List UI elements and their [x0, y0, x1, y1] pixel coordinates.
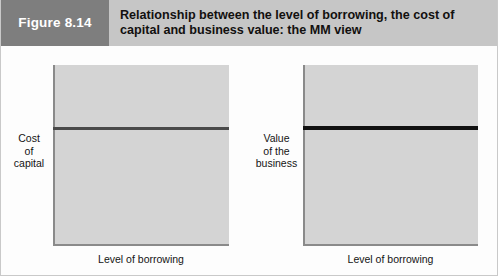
figure-title-container: Relationship between the level of borrow… — [109, 0, 498, 46]
x-axis-label-business-value: Level of borrowing — [303, 253, 478, 266]
series-line-cost-of-capital — [53, 127, 229, 130]
chart-business-value: Value of the business Level of borrowing — [250, 46, 498, 276]
y-axis-label-line-2: of the — [252, 145, 301, 158]
y-axis-label-line-1: Value — [252, 132, 301, 145]
figure-header: Figure 8.14 Relationship between the lev… — [1, 0, 498, 46]
y-axis-line-cost-of-capital — [53, 65, 55, 246]
y-axis-label-cost-of-capital: Cost of capital — [7, 132, 51, 170]
y-axis-label-line-2: of — [7, 145, 51, 158]
charts-area: Cost of capital Level of borrowing Value… — [1, 46, 498, 276]
figure-container: Figure 8.14 Relationship between the lev… — [0, 0, 498, 276]
x-axis-line-cost-of-capital — [53, 244, 229, 246]
x-axis-line-business-value — [303, 244, 478, 246]
y-axis-label-line-1: Cost — [7, 132, 51, 145]
y-axis-label-line-3: business — [252, 157, 301, 170]
chart-cost-of-capital: Cost of capital Level of borrowing — [1, 46, 250, 276]
plot-area-business-value — [303, 65, 478, 246]
figure-number-label: Figure 8.14 — [18, 16, 91, 30]
plot-background-cost-of-capital — [55, 65, 229, 244]
figure-title: Relationship between the level of borrow… — [120, 8, 480, 39]
y-axis-line-business-value — [303, 65, 305, 246]
x-axis-label-cost-of-capital: Level of borrowing — [53, 253, 229, 266]
y-axis-label-line-3: capital — [7, 157, 51, 170]
plot-area-cost-of-capital — [53, 65, 229, 246]
y-axis-label-business-value: Value of the business — [252, 132, 301, 170]
figure-number-tag: Figure 8.14 — [1, 0, 109, 46]
plot-background-business-value — [305, 65, 478, 244]
series-line-business-value — [303, 126, 478, 130]
